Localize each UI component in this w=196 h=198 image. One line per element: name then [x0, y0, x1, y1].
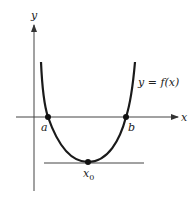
point-b [123, 114, 129, 120]
point-x0 [85, 159, 91, 165]
function-diagram: y x y = f(x) a b x0 [0, 0, 196, 198]
label-b: b [128, 121, 135, 134]
label-x0: x0 [83, 167, 94, 182]
point-a [45, 114, 51, 120]
x-axis-label: x [181, 111, 188, 124]
curve-label: y = f(x) [137, 76, 179, 89]
y-axis-label: y [30, 9, 38, 22]
label-x0-subscript: 0 [89, 173, 94, 182]
label-a: a [41, 121, 48, 134]
function-curve [41, 62, 135, 162]
